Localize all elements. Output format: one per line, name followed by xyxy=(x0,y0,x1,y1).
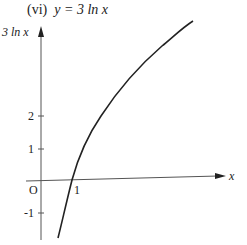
x-axis xyxy=(26,176,218,181)
y-axis-arrow-icon xyxy=(38,26,44,37)
y-axis-label: 3 ln x xyxy=(2,26,29,38)
plot-area xyxy=(0,0,247,245)
y-tick-label-1: 1 xyxy=(28,143,34,155)
x-axis-label: x xyxy=(229,170,234,182)
x-tick-label-1: 1 xyxy=(74,184,80,196)
curve-3lnx xyxy=(58,21,193,238)
x-axis-arrow-icon xyxy=(215,173,226,179)
y-tick-label-minus-1: -1 xyxy=(24,207,34,219)
y-tick-label-2: 2 xyxy=(28,110,34,122)
origin-label: O xyxy=(29,184,38,196)
